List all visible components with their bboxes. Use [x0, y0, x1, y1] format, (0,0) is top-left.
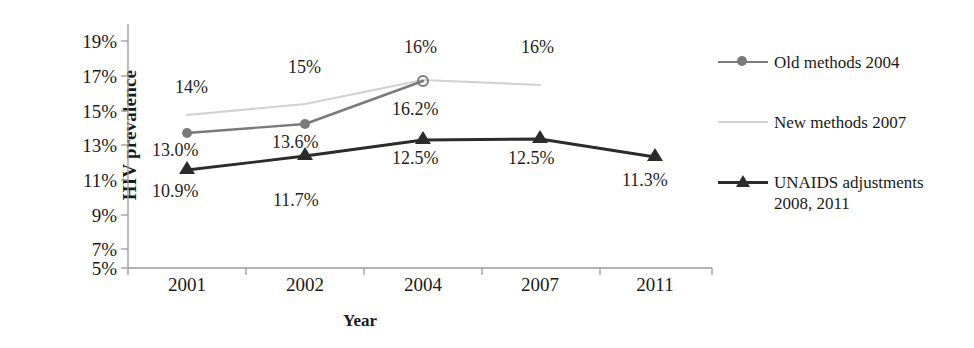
- data-label-old-2002: 13.6%: [272, 133, 319, 151]
- legend-line-new-methods: [718, 121, 768, 123]
- data-label-unaids-2007: 12.5%: [508, 149, 555, 167]
- marker-unaids-2004: [415, 131, 431, 144]
- data-label-unaids-2004: 12.5%: [392, 149, 439, 167]
- data-label-new-2001: 14%: [175, 78, 208, 96]
- triangle-marker-icon: [736, 175, 750, 187]
- x-tick-2004: 2004: [378, 274, 468, 296]
- legend-key-unaids: [718, 172, 768, 192]
- data-label-new-2007: 16%: [521, 38, 554, 56]
- marker-old-methods-2002: [300, 119, 310, 129]
- x-tick-2002: 2002: [260, 274, 350, 296]
- data-label-old-2001: 13.0%: [152, 141, 199, 159]
- circle-marker-icon: [737, 56, 747, 66]
- data-label-old-2004: 16.2%: [392, 100, 439, 118]
- y-axis-ticks: [121, 41, 128, 268]
- marker-old-methods-2001: [182, 128, 192, 138]
- hiv-prevalence-line-chart: HIV prevalence 19% 17% 15% 13% 11% 9% 7%…: [0, 0, 974, 348]
- series-line-new-methods: [187, 80, 540, 115]
- marker-unaids-2001: [179, 161, 195, 174]
- data-label-unaids-2002: 11.7%: [273, 191, 319, 209]
- x-tick-2007: 2007: [495, 274, 585, 296]
- x-tick-2011: 2011: [610, 274, 700, 296]
- data-label-new-2004: 16%: [404, 38, 437, 56]
- marker-unaids-2011: [647, 148, 663, 161]
- data-label-unaids-2001: 10.9%: [152, 182, 199, 200]
- legend-item-new-methods[interactable]: New methods 2007: [718, 112, 906, 133]
- data-label-unaids-2011: 11.3%: [622, 171, 668, 189]
- legend-key-new-methods: [718, 112, 768, 132]
- marker-unaids-2007: [532, 130, 548, 143]
- legend-label-old-methods: Old methods 2004: [768, 52, 900, 73]
- legend-item-unaids[interactable]: UNAIDS adjustments 2008, 2011: [718, 172, 924, 215]
- x-axis-title: Year: [0, 311, 720, 331]
- legend-item-old-methods[interactable]: Old methods 2004: [718, 52, 900, 73]
- legend-label-new-methods: New methods 2007: [768, 112, 906, 133]
- x-tick-2001: 2001: [142, 274, 232, 296]
- legend-key-old-methods: [718, 52, 768, 72]
- legend-label-unaids: UNAIDS adjustments 2008, 2011: [768, 172, 924, 215]
- data-label-new-2002: 15%: [288, 58, 321, 76]
